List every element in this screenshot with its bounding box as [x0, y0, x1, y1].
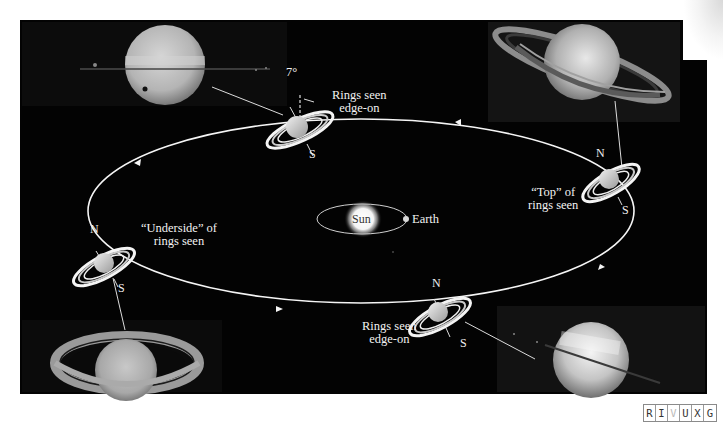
- pole-north-right: N: [596, 146, 605, 161]
- label-bottom-rings-edge-on: Rings seen edge-on: [362, 320, 417, 346]
- saturn-left-position: [69, 241, 139, 292]
- badge-letter-x: X: [692, 405, 704, 421]
- figure-stage: 7° Sun Earth Rings seen edge-on S N S “T…: [0, 0, 723, 423]
- label-line: rings seen: [528, 199, 578, 212]
- pole-north-bottom: N: [432, 276, 441, 291]
- pole-south-top: S: [309, 147, 316, 162]
- label-top-rings-edge-on: Rings seen edge-on: [332, 89, 387, 115]
- label-underside-of-rings-seen: “Underside” of rings seen: [141, 222, 217, 248]
- pole-south-bottom: S: [460, 336, 467, 351]
- pole-south-left: S: [118, 281, 125, 296]
- badge-letter-v-active: V: [668, 405, 680, 421]
- earth: [403, 216, 409, 222]
- badge-letter-i: I: [656, 405, 668, 421]
- badge-letter-g: G: [704, 405, 716, 421]
- label-top-of-rings-seen: “Top” of rings seen: [528, 186, 578, 212]
- pole-south-right: S: [622, 203, 629, 218]
- pole-north-left: N: [90, 222, 99, 237]
- label-line: rings seen: [141, 235, 217, 248]
- badge-letter-u: U: [680, 405, 692, 421]
- saturn-right-position: [578, 157, 644, 208]
- label-line: edge-on: [362, 333, 417, 346]
- sun-label: Sun: [352, 213, 371, 226]
- badge-letter-r: R: [644, 405, 656, 421]
- earth-label: Earth: [412, 213, 439, 226]
- label-line: edge-on: [332, 102, 387, 115]
- tilt-angle-label: 7°: [286, 66, 297, 79]
- sun-earth-system: [317, 200, 409, 253]
- wavelength-badge: R I V U X G: [643, 404, 717, 422]
